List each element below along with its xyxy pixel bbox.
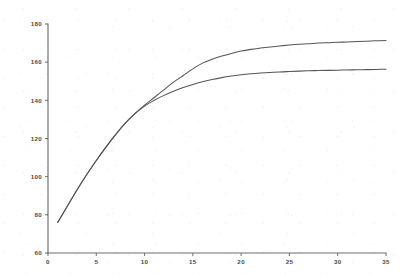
x-tick-label: 0 bbox=[46, 258, 50, 265]
y-tick-label: 160 bbox=[31, 58, 43, 65]
y-tick-label: 120 bbox=[31, 135, 43, 142]
x-tick-label: 25 bbox=[286, 258, 294, 265]
y-tick-label: 60 bbox=[34, 249, 42, 256]
y-tick-label: 80 bbox=[34, 211, 42, 218]
chart-figure: 6080100120140160180 05101520253035 bbox=[0, 0, 404, 275]
x-tick-label: 10 bbox=[141, 258, 149, 265]
x-tick-label: 15 bbox=[189, 258, 197, 265]
x-tick-label: 5 bbox=[94, 258, 98, 265]
data-series-group bbox=[58, 41, 386, 223]
y-tick-label: 180 bbox=[31, 20, 43, 27]
series-lower-curve bbox=[58, 69, 386, 222]
x-tick-label: 35 bbox=[382, 258, 390, 265]
y-tick-label: 100 bbox=[31, 173, 43, 180]
x-axis-tick-labels: 05101520253035 bbox=[46, 258, 390, 265]
series-upper-curve bbox=[58, 41, 386, 223]
x-tick-label: 30 bbox=[334, 258, 342, 265]
x-tick-label: 20 bbox=[237, 258, 245, 265]
y-axis-tick-labels: 6080100120140160180 bbox=[31, 20, 43, 256]
line-chart-plot: 6080100120140160180 05101520253035 bbox=[0, 0, 404, 275]
y-tick-label: 140 bbox=[31, 97, 43, 104]
